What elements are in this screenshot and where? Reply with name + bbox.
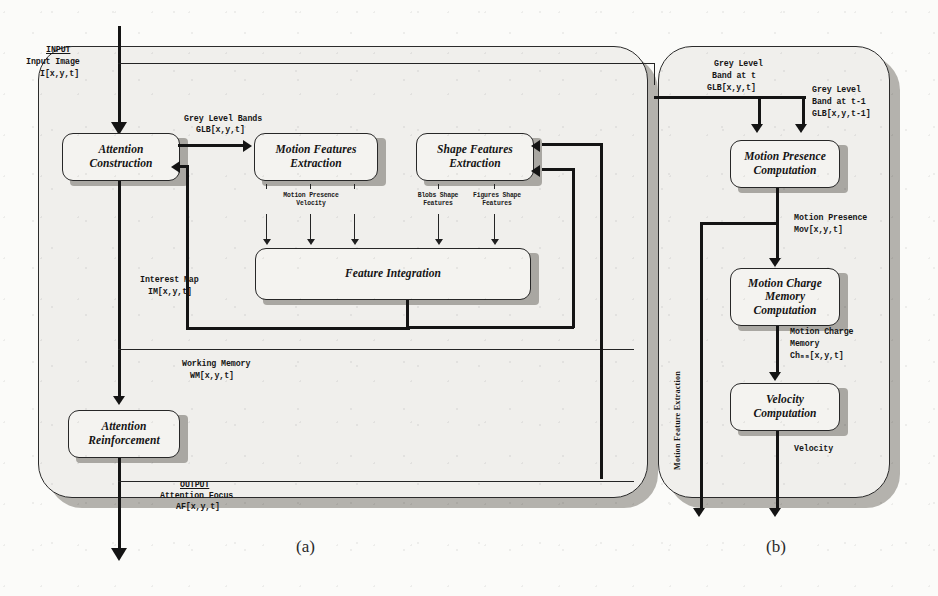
sf-tick-1 <box>438 184 439 189</box>
sf-tick-2 <box>494 184 495 189</box>
motion-presence-branch-arrowhead <box>693 508 705 517</box>
fi-in-arrow-5 <box>491 239 499 245</box>
velocity-arrowhead <box>769 508 781 517</box>
glb-tm1-l3: GLB[x,y,t-1] <box>812 108 871 119</box>
fi-in-arrow-3 <box>351 239 359 245</box>
fi-feedback-up <box>186 165 189 330</box>
glb-arrowhead <box>243 140 252 152</box>
feedback-right-outer-v <box>600 143 603 479</box>
attention-construction-l2: Construction <box>89 157 152 169</box>
output-line1: Attention Focus <box>160 490 233 501</box>
motion-presence-arrowhead <box>769 258 781 267</box>
glb-t-l3: GLB[x,y,t] <box>707 82 756 93</box>
glb-label-l2: GLB[x,y,t] <box>196 124 245 135</box>
interest-map-l2: IM[x,y,t] <box>148 286 192 297</box>
feature-integration-box: Feature Integration <box>255 248 531 300</box>
motion-charge-comp-l1: Motion Charge <box>748 277 822 289</box>
attention-reinforcement-l2: Reinforcement <box>88 434 160 446</box>
motion-charge-line <box>776 326 779 374</box>
feature-integration-l1: Feature Integration <box>345 267 441 279</box>
fi-in-line-1 <box>266 214 267 240</box>
fi-in-arrow-2 <box>307 239 315 245</box>
motion-presence-comp-l1: Motion Presence <box>744 150 826 162</box>
feedback-right-inner-v <box>572 168 575 328</box>
velocity-sig-l1: Velocity <box>794 443 833 454</box>
motion-presence-comp-box: Motion Presence Computation <box>730 140 840 188</box>
mf-tick-3 <box>354 184 355 189</box>
shape-features-box: Shape Features Extraction <box>416 133 534 181</box>
feedback-right-outer-h <box>542 143 602 146</box>
output-arrowhead <box>111 548 127 561</box>
caption-b: (b) <box>766 537 786 557</box>
panelb-top-bus <box>654 96 806 99</box>
glb-tm1-l1: Grey Level <box>812 84 861 95</box>
motion-features-l2: Extraction <box>290 157 341 169</box>
glb-t-l2: Band at t <box>712 70 756 81</box>
velocity-line <box>776 431 779 510</box>
input-to-panelb-drop <box>654 63 655 85</box>
output-trunk <box>118 458 121 550</box>
fi-in-arrow-4 <box>435 239 443 245</box>
motion-charge-sig-l2: Memory <box>790 338 819 349</box>
velocity-comp-l2: Computation <box>753 407 816 419</box>
feedback-bus-bottom <box>118 481 634 482</box>
working-memory-line <box>118 349 634 350</box>
figure-canvas: INPUT Input Image I[x,y,t] Attention Con… <box>0 0 938 596</box>
motion-presence-branch-v <box>700 222 703 510</box>
attention-construction-l1: Attention <box>98 143 143 155</box>
interest-map-l1: Interest Map <box>140 274 199 285</box>
feedback-arrow-1 <box>531 140 540 152</box>
input-line2: I[x,y,t] <box>40 68 79 79</box>
panelb-glbtm1-drop <box>802 96 805 126</box>
working-memory-l1: Working Memory <box>182 358 250 369</box>
fi-in-arrow-1 <box>263 239 271 245</box>
feedback-right-inner-h <box>542 168 574 171</box>
motion-charge-sig-l3: Chₘₘ[x,y,t] <box>790 350 844 361</box>
attention-reinforcement-arrowhead <box>113 396 125 405</box>
feedback-arrow-2 <box>531 165 540 177</box>
attention-reinforcement-box: Attention Reinforcement <box>68 410 180 458</box>
fi-in-line-2 <box>310 214 311 240</box>
interest-map-trunk <box>118 181 121 400</box>
glb-label-l1: Grey Level Bands <box>184 113 262 124</box>
mf-tick-2 <box>310 184 311 189</box>
panelb-glbtm1-arrowhead <box>795 124 807 133</box>
figures-shape-label-l2: Features <box>464 200 530 208</box>
fi-feedback-arrowhead <box>171 161 180 173</box>
input-trunk-line <box>118 26 121 124</box>
mf-tick-1 <box>266 184 267 189</box>
motion-charge-comp-l2: Memory <box>765 290 805 302</box>
motion-presence-label-l2: Velocity <box>268 200 354 208</box>
motion-charge-arrowhead <box>769 372 781 381</box>
fi-feedback-into-ac <box>180 165 189 168</box>
fi-in-line-3 <box>354 214 355 240</box>
glb-tm1-l2: Band at t-1 <box>812 96 866 107</box>
panelb-glbt-drop <box>758 96 761 126</box>
feedback-inner-bottom-h <box>406 326 574 329</box>
motion-features-l1: Motion Features <box>275 143 356 155</box>
motion-charge-comp-l3: Computation <box>753 304 816 316</box>
input-heading: INPUT <box>46 44 70 55</box>
glb-t-l1: Grey Level <box>714 58 763 69</box>
input-to-panelb-line <box>118 63 655 64</box>
shape-features-l1: Shape Features <box>437 143 513 155</box>
output-line2: AF[x,y,t] <box>176 501 220 512</box>
motion-charge-sig-l1: Motion Charge <box>790 326 853 337</box>
fi-in-line-4 <box>438 214 439 240</box>
motion-features-box: Motion Features Extraction <box>254 133 378 181</box>
velocity-comp-box: Velocity Computation <box>730 383 840 431</box>
motion-presence-comp-l2: Computation <box>753 164 816 176</box>
attention-reinforcement-l1: Attention <box>101 420 146 432</box>
motion-presence-sig-l1: Motion Presence <box>794 212 867 223</box>
blobs-shape-label-l2: Features <box>406 200 470 208</box>
fi-feedback-left <box>186 327 410 330</box>
motion-charge-comp-box: Motion Charge Memory Computation <box>730 268 840 326</box>
attention-construction-box: Attention Construction <box>62 133 180 181</box>
motion-presence-branch-h <box>700 222 778 225</box>
shape-features-l2: Extraction <box>449 157 500 169</box>
working-memory-l2: WM[x,y,t] <box>190 370 234 381</box>
motion-presence-sig-l2: Mov[x,y,t] <box>794 224 843 235</box>
caption-a: (a) <box>296 537 315 557</box>
input-line1: Input Image <box>26 56 80 67</box>
glb-arrow-line <box>178 144 246 147</box>
